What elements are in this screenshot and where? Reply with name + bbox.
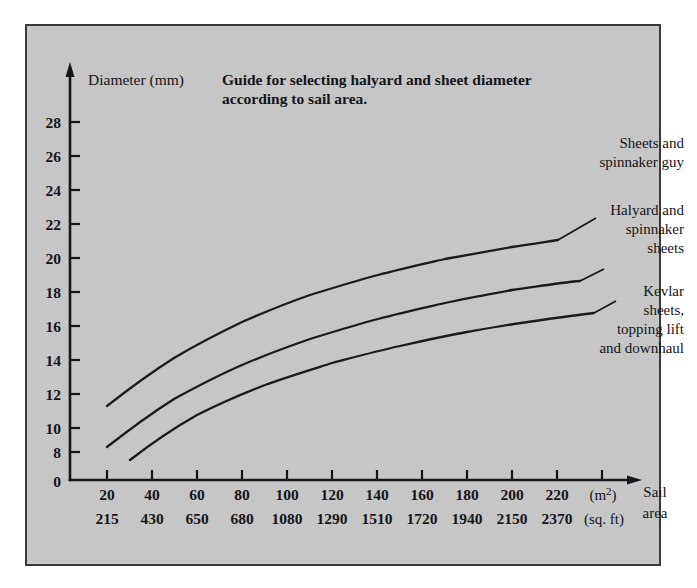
y-tick-marks (70, 122, 80, 452)
series-label-line: topping lift (617, 321, 685, 337)
chart-svg: 28 26 24 22 20 18 16 14 12 10 8 0 (0, 0, 697, 588)
y-tick-label: 14 (46, 352, 62, 369)
series-label-line: and downhaul (599, 340, 684, 356)
chart-title-line2: according to sail area. (222, 90, 367, 107)
x-tick-labels-sqft: 215 430 650 680 1080 1290 1510 1720 1940… (95, 510, 624, 528)
x-tick-label-sqft: 680 (230, 510, 254, 527)
y-tick-label: 22 (46, 216, 62, 233)
x-tick-label-sqft: 1290 (317, 510, 348, 527)
x-axis-arrowhead (627, 476, 642, 485)
y-tick-label: 24 (46, 182, 62, 199)
y-tick-label: 20 (46, 250, 62, 267)
series-curve-halyard-spinnaker-sheets (107, 281, 580, 447)
x-tick-marks (107, 470, 602, 480)
series-curve-sheets-spinnaker-guy (107, 240, 558, 406)
y-axis-title: Diameter (mm) (88, 71, 184, 89)
x-tick-label-sqft: 1080 (272, 510, 303, 527)
x-unit-m2-text: (m (589, 487, 606, 504)
series-label-line: sheets (647, 240, 684, 256)
x-tick-labels-m2: 20 40 60 80 100 120 140 160 180 200 220 … (99, 485, 616, 504)
y-tick-label: 12 (46, 386, 62, 403)
series-label-halyard-spinnaker-sheets: Halyard and spinnaker sheets (610, 202, 684, 256)
series-label-line: Halyard and (610, 202, 684, 218)
x-tick-label-sqft: 1720 (407, 510, 438, 527)
x-tick-label-sqft: 1940 (452, 510, 483, 527)
x-tick-label-sqft: 1510 (362, 510, 393, 527)
x-tick-label: 180 (455, 486, 479, 503)
x-tick-label: 160 (410, 486, 434, 503)
series-label-sheets-spinnaker-guy: Sheets and spinnaker guy (599, 135, 684, 170)
series-label-kevlar-sheets: Kevlar sheets, topping lift and downhaul (599, 283, 684, 356)
series-label-line: Sheets and (619, 135, 684, 151)
x-axis-title-line2: area (643, 505, 668, 521)
y-tick-label: 28 (46, 114, 62, 131)
y-tick-label: 18 (46, 284, 62, 301)
x-tick-label-sqft: 2150 (497, 510, 528, 527)
leader-line-sheets (558, 218, 596, 240)
y-axis (66, 62, 75, 480)
x-tick-label-sqft: 2370 (542, 510, 573, 527)
x-unit-sqft: (sq. ft) (584, 511, 624, 528)
series-label-line: spinnaker guy (599, 154, 684, 170)
series-label-line: Kevlar (643, 283, 684, 299)
x-tick-label: 220 (545, 486, 569, 503)
x-tick-label: 20 (99, 486, 115, 503)
x-tick-label: 40 (144, 486, 160, 503)
series-label-line: sheets, (644, 302, 684, 318)
x-tick-label-sqft: 215 (95, 510, 119, 527)
y-tick-label: 0 (53, 473, 61, 490)
x-tick-label: 120 (320, 486, 344, 503)
chart-title-line1: Guide for selecting halyard and sheet di… (222, 71, 532, 88)
x-tick-label-sqft: 650 (185, 510, 209, 527)
x-axis-title-line1: Sail (643, 484, 666, 500)
x-axis-title: Sail area (643, 484, 668, 521)
y-tick-label: 8 (53, 444, 61, 461)
leader-line-halyard (580, 269, 604, 281)
x-tick-label-sqft: 430 (140, 510, 164, 527)
y-tick-label: 26 (46, 148, 62, 165)
figure-canvas: 28 26 24 22 20 18 16 14 12 10 8 0 (0, 0, 697, 588)
series-label-line: spinnaker (626, 221, 684, 237)
y-tick-labels: 28 26 24 22 20 18 16 14 12 10 8 0 (46, 114, 62, 490)
x-tick-label: 80 (234, 486, 250, 503)
y-tick-label: 16 (46, 318, 62, 335)
y-tick-label: 10 (46, 420, 62, 437)
y-axis-arrowhead (66, 62, 75, 77)
chart-title: Guide for selecting halyard and sheet di… (222, 71, 532, 107)
x-tick-label: 140 (365, 486, 389, 503)
leader-line-kevlar (594, 301, 616, 313)
x-tick-label: 60 (189, 486, 205, 503)
x-unit-m2: (m2) (589, 485, 616, 504)
x-tick-label: 200 (500, 486, 524, 503)
x-tick-label: 100 (275, 486, 299, 503)
